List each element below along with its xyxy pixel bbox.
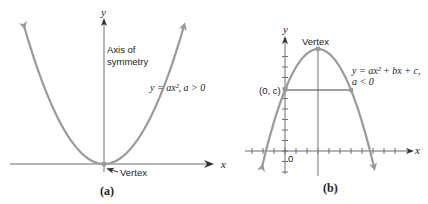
caption-b: (b): [323, 181, 338, 195]
axis-of-symmetry-label-2: symmetry: [107, 56, 148, 67]
vertex-point: [101, 161, 106, 166]
equation-label: y = ax² + bx + c,: [351, 65, 421, 76]
y-intercept-label: (0, c): [259, 85, 281, 96]
vertex-pointer-arrow: [108, 169, 118, 172]
symmetric-point: [349, 88, 354, 93]
vertex-label: Vertex: [302, 36, 329, 47]
equation-condition-label: a < 0: [352, 76, 374, 87]
x-axis-label: x: [414, 144, 420, 156]
origin-label: 0: [288, 153, 293, 164]
axis-of-symmetry-label: Axis of: [107, 44, 136, 55]
vertex-label: Vertex: [120, 167, 147, 178]
y-axis-label: y: [100, 6, 106, 18]
figure: y Axis of symmetry y = ax², a > 0 Vertex…: [0, 0, 428, 204]
panel-b: y x Vertex (0, c) 0 y = ax² + bx + c, a …: [245, 23, 421, 195]
y-intercept-point: [283, 88, 288, 93]
panel-a: y Axis of symmetry y = ax², a > 0 Vertex…: [10, 6, 212, 198]
equation-label: y = ax², a > 0: [149, 82, 205, 93]
y-axis-label: y: [282, 23, 288, 35]
caption-a: (a): [100, 184, 114, 198]
x-axis-label-a: x: [220, 158, 226, 170]
vertex-point: [316, 47, 321, 52]
